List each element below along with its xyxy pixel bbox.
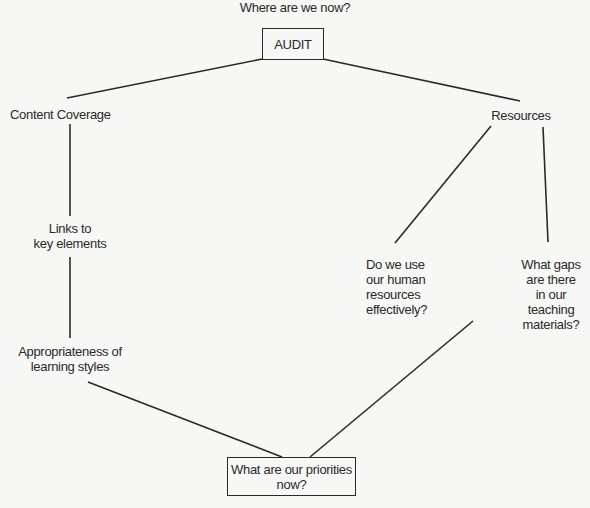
resources-node: Resources: [486, 108, 556, 123]
audit-label: AUDIT: [274, 37, 312, 52]
appropriateness-node: Appropriateness of learning styles: [10, 344, 130, 374]
line-teaching-gaps-to-priorities: [310, 321, 473, 457]
audit-box: AUDIT: [262, 28, 324, 60]
line-audit-to-resources: [323, 59, 520, 101]
priorities-label: What are our priorities now?: [231, 462, 352, 492]
header-question: Where are we now?: [230, 0, 360, 15]
line-resources-to-human-resources: [395, 126, 491, 243]
connector-lines: [0, 0, 590, 508]
line-appropriateness-to-priorities: [88, 382, 282, 457]
line-resources-to-teaching-gaps: [543, 127, 548, 242]
content-coverage-node: Content Coverage: [10, 107, 130, 122]
line-audit-to-content-coverage: [67, 59, 262, 98]
priorities-box: What are our priorities now?: [227, 457, 356, 496]
teaching-gaps-node: What gaps are there in our teaching mate…: [518, 257, 584, 332]
human-resources-node: Do we use our human resources effectivel…: [366, 257, 446, 317]
links-to-key-elements-node: Links to key elements: [20, 221, 120, 251]
